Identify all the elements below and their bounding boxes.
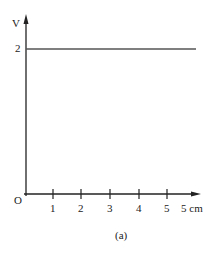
x-tick-label: 4 — [136, 203, 142, 214]
x-axis-arrow-icon — [191, 192, 201, 197]
figure-caption: (a) — [115, 230, 127, 241]
x-tick-label: 3 — [107, 203, 113, 214]
x-tick-label: 1 — [50, 203, 56, 214]
x-tick-label: 2 — [78, 203, 84, 214]
x-tick-label: 5 — [164, 203, 170, 214]
y-axis-label: V — [12, 18, 20, 29]
y-tick-label: 2 — [15, 43, 21, 54]
chart-canvas — [0, 0, 217, 255]
origin-label: O — [14, 195, 22, 206]
x-unit-label: 5 cm — [181, 203, 203, 214]
y-axis-arrow-icon — [24, 14, 29, 24]
